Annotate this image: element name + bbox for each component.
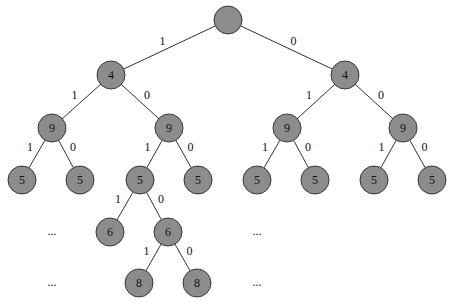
tree-node: 9 — [155, 114, 183, 142]
tree-node: 5 — [184, 166, 212, 194]
edge-label: 1 — [379, 140, 385, 154]
edge-label: 1 — [145, 140, 151, 154]
edge-label: 1 — [160, 34, 166, 48]
edge-label: 0 — [188, 140, 194, 154]
edge-label: 1 — [306, 88, 312, 102]
node-label: 5 — [371, 173, 377, 187]
edge-label: 1 — [262, 140, 268, 154]
ellipsis-indicator: ... — [253, 275, 262, 289]
tree-node: 5 — [301, 166, 329, 194]
node-label: 5 — [312, 173, 318, 187]
node-circle — [214, 6, 242, 34]
edge-label: 1 — [72, 88, 78, 102]
node-label: 6 — [165, 225, 171, 239]
edge-label: 1 — [144, 244, 150, 258]
edge-label: 0 — [187, 244, 193, 258]
node-label: 4 — [342, 68, 348, 82]
tree-node: 5 — [243, 166, 271, 194]
tree-node: 5 — [360, 166, 388, 194]
node-label: 5 — [137, 173, 143, 187]
node-label: 5 — [195, 173, 201, 187]
tree-node: 9 — [38, 114, 66, 142]
edge-label: 1 — [115, 192, 121, 206]
edge-label: 0 — [305, 140, 311, 154]
tree-node: 6 — [96, 218, 124, 246]
tree-node: 8 — [183, 269, 211, 297]
tree-svg: 101010101010101010 449999555555556688 ..… — [0, 0, 453, 307]
node-label: 8 — [136, 276, 142, 290]
edge-label: 0 — [422, 140, 428, 154]
edge-label: 0 — [158, 192, 164, 206]
edge-label: 0 — [70, 140, 76, 154]
tree-edge — [228, 20, 345, 75]
ellipsis-indicator: ... — [48, 275, 57, 289]
tree-node: 9 — [389, 114, 417, 142]
node-label: 5 — [254, 173, 260, 187]
edge-label: 0 — [291, 34, 297, 48]
tree-node: 5 — [66, 166, 94, 194]
node-label: 9 — [284, 121, 290, 135]
tree-node: 6 — [154, 218, 182, 246]
tree-node: 4 — [97, 61, 125, 89]
node-label: 4 — [108, 68, 114, 82]
tree-edge — [111, 20, 228, 75]
edge-label: 0 — [378, 88, 384, 102]
node-label: 8 — [194, 276, 200, 290]
tree-node: 5 — [8, 166, 36, 194]
ellipsis-indicator: ... — [48, 224, 57, 238]
tree-node: 9 — [273, 114, 301, 142]
ellipsis-indicator: ... — [253, 224, 262, 238]
tree-node: 8 — [125, 269, 153, 297]
edges-layer: 101010101010101010 — [22, 20, 432, 283]
node-label: 5 — [19, 173, 25, 187]
tree-node: 5 — [126, 166, 154, 194]
node-label: 9 — [400, 121, 406, 135]
node-label: 9 — [166, 121, 172, 135]
edge-label: 0 — [144, 88, 150, 102]
tree-node — [214, 6, 242, 34]
node-label: 5 — [77, 173, 83, 187]
edge-label: 1 — [27, 140, 33, 154]
node-label: 6 — [107, 225, 113, 239]
tree-node: 5 — [418, 166, 446, 194]
node-label: 5 — [429, 173, 435, 187]
tree-diagram: 101010101010101010 449999555555556688 ..… — [0, 0, 453, 307]
node-label: 9 — [49, 121, 55, 135]
tree-node: 4 — [331, 61, 359, 89]
